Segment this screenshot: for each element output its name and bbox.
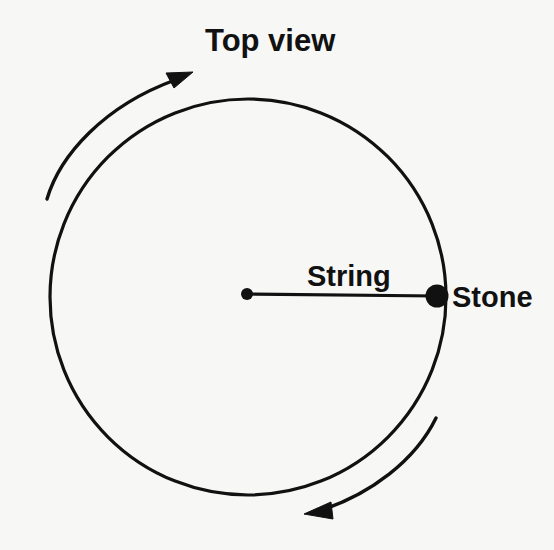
lower-right-rotation-arrow — [304, 418, 436, 519]
string-label: String — [307, 260, 391, 292]
lower-right-rotation-arrowhead — [304, 502, 333, 519]
stone-dot — [426, 285, 449, 308]
top-view-circular-motion-diagram: Top view String Stone — [0, 0, 554, 550]
top-view-label: Top view — [205, 23, 336, 58]
lower-right-rotation-arrow-arc — [322, 418, 436, 510]
string-line — [247, 294, 437, 296]
diagram-figure: Top view String Stone — [0, 0, 554, 550]
upper-left-rotation-arrow — [47, 72, 193, 199]
upper-left-rotation-arrow-arc — [47, 80, 175, 199]
stone-label: Stone — [452, 281, 533, 313]
center-pivot-dot — [241, 288, 253, 300]
upper-left-rotation-arrowhead — [166, 72, 193, 88]
